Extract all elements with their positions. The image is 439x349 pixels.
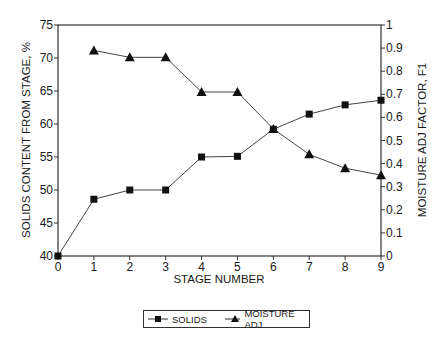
right-y-tick-label: 0 [386, 249, 393, 263]
left-y-tick-label: 55 [40, 150, 54, 164]
legend-item-moisture: MOISTURE ADJ [225, 308, 299, 330]
right-y-tick-label: 0.9 [386, 41, 403, 55]
square-marker [162, 187, 169, 194]
legend-label-moisture: MOISTURE ADJ [244, 308, 299, 330]
series-line-solids [58, 100, 381, 256]
right-y-tick-label: 1 [386, 18, 393, 32]
x-tick-label: 3 [162, 260, 169, 274]
x-axis-title: STAGE NUMBER [173, 273, 264, 285]
right-y-tick-label: 0.3 [386, 180, 403, 194]
right-y-tick-label: 0.5 [386, 134, 403, 148]
x-tick-label: 7 [306, 260, 313, 274]
left-y-tick-label: 65 [40, 84, 54, 98]
square-marker-icon [148, 315, 168, 323]
triangle-marker-icon [225, 315, 241, 323]
square-marker [342, 101, 349, 108]
right-y-tick-label: 0.2 [386, 203, 403, 217]
left-y-tick-label: 45 [40, 216, 54, 230]
square-marker [90, 196, 97, 203]
x-tick-label: 8 [342, 260, 349, 274]
left-y-tick-label: 60 [40, 117, 54, 131]
left-y-tick-label: 70 [40, 51, 54, 65]
legend-label-solids: SOLIDS [172, 314, 207, 325]
right-y-tick-label: 0.6 [386, 110, 403, 124]
x-tick-label: 1 [91, 260, 98, 274]
square-marker [55, 253, 62, 260]
right-y-tick-label: 0.7 [386, 87, 403, 101]
x-tick-label: 0 [55, 260, 62, 274]
axes: 0123456789404550556065707500.10.20.30.40… [40, 18, 403, 274]
series-layer [55, 45, 387, 259]
square-marker [378, 97, 385, 104]
left-y-axis-title: SOLIDS CONTENT FROM STAGE, % [20, 42, 32, 238]
triangle-marker [340, 163, 350, 172]
square-marker [306, 111, 313, 118]
square-marker [126, 187, 133, 194]
legend-item-solids: SOLIDS [148, 314, 207, 325]
right-y-tick-label: 0.8 [386, 64, 403, 78]
right-y-tick-label: 0.4 [386, 157, 403, 171]
plot-frame [58, 25, 381, 256]
triangle-marker [89, 45, 99, 54]
square-marker [198, 154, 205, 161]
dual-axis-line-chart: 0123456789404550556065707500.10.20.30.40… [0, 0, 439, 349]
x-tick-label: 6 [270, 260, 277, 274]
left-y-tick-label: 40 [40, 249, 54, 263]
right-y-tick-label: 0.1 [386, 226, 403, 240]
right-y-axis-title: MOISTURE ADJ FACTOR, F1 [416, 63, 428, 217]
square-marker [234, 153, 241, 160]
chart-legend: SOLIDS MOISTURE ADJ [143, 310, 310, 328]
x-tick-label: 5 [234, 260, 241, 274]
triangle-marker [304, 149, 314, 158]
left-y-tick-label: 50 [40, 183, 54, 197]
left-y-tick-label: 75 [40, 18, 54, 32]
x-tick-label: 4 [198, 260, 205, 274]
x-tick-label: 9 [378, 260, 385, 274]
x-tick-label: 2 [126, 260, 133, 274]
